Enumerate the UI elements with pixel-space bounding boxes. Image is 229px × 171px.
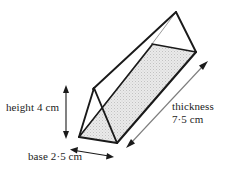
height-dimension-arrow (63, 85, 69, 139)
base-label: base 2·5 cm (28, 150, 82, 163)
thickness-label-line1: thickness (172, 100, 214, 112)
thickness-label: thickness 7·5 cm (172, 100, 228, 125)
prism-drawing (0, 0, 229, 171)
thickness-label-line2: 7·5 cm (172, 113, 228, 126)
height-label: height 4 cm (6, 101, 59, 114)
prism-diagram: height 4 cm base 2·5 cm thickness 7·5 cm (0, 0, 229, 171)
